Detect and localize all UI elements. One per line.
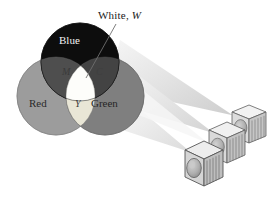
projector-front-lens <box>187 158 202 177</box>
figure-canvas <box>0 0 273 197</box>
projector-front <box>185 141 223 186</box>
projector-front-lens-highlight <box>189 161 195 169</box>
venn-diagram <box>17 23 144 135</box>
color-mixing-figure: White, W Blue Red Green M C Y <box>0 0 273 197</box>
